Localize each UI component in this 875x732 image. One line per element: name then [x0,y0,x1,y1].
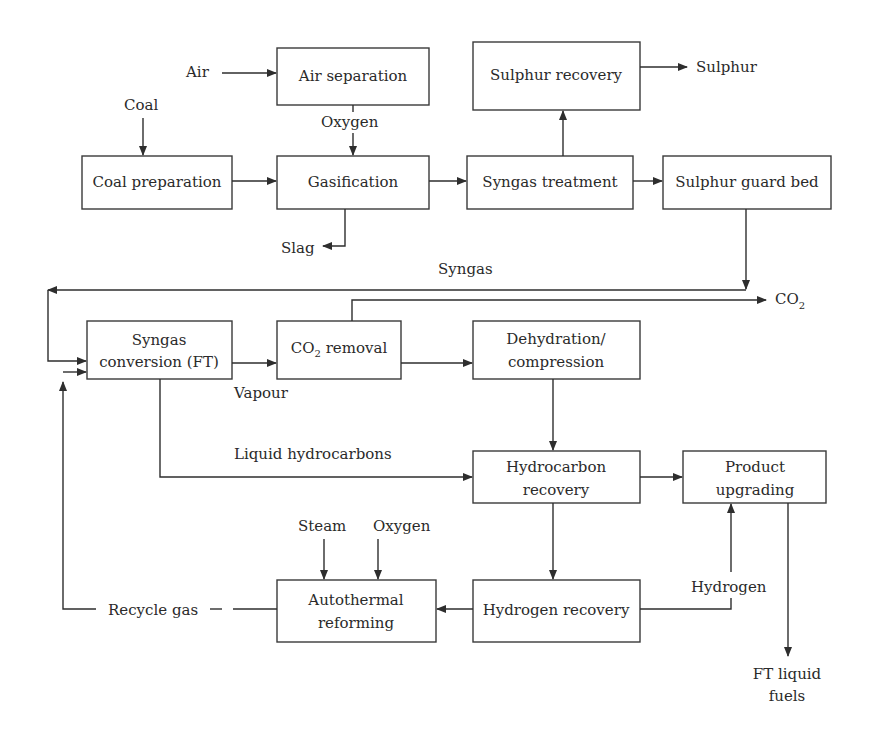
stream-label-liquid-hydrocarbons: Liquid hydrocarbons [234,445,392,463]
stream-label-sulphur: Sulphur [696,58,758,76]
stream-label-recycle-gas: Recycle gas [108,601,198,619]
arrow-recycle-up [63,382,96,609]
box-label: Syngas treatment [482,173,617,191]
stream-label-co2: CO2 [775,290,805,311]
box-label-line-2: conversion (FT) [99,353,219,371]
stream-label-ft-liquid-fuels-2: fuels [769,687,806,705]
box-label-line-2: recovery [523,481,590,499]
box-label-line-1: Product [725,458,785,476]
stream-label-slag: Slag [281,239,315,257]
box-hydrogen-recovery: Hydrogen recovery [473,580,640,642]
box-label-line-1: Autothermal [307,591,403,609]
stream-label-vapour: Vapour [233,384,289,402]
box-label: Gasification [308,173,399,191]
line-hydrogen-a [640,598,731,609]
box-label: Sulphur recovery [490,66,623,84]
box-syngas-treatment: Syngas treatment [467,156,633,209]
box-label-line-2: upgrading [716,481,795,499]
stream-label-air: Air [185,63,210,81]
box-label-line-2: compression [508,353,605,371]
stream-label-coal: Coal [124,96,158,114]
box-autothermal-reforming: Autothermal reforming [277,580,436,642]
stream-label-oxygen-top: Oxygen [321,113,379,131]
stream-label-steam: Steam [298,517,346,535]
box-label: Coal preparation [93,173,222,191]
arrow-co2-out [352,300,766,321]
arrow-syngas-into-conversion [48,290,86,361]
box-co2-removal: CO2 removal [277,321,401,379]
stream-label-syngas: Syngas [438,260,493,278]
box-hydrocarbon-recovery: Hydrocarbon recovery [473,451,640,503]
box-label-line-1: Hydrocarbon [506,458,607,476]
box-sulphur-recovery: Sulphur recovery [473,42,640,110]
box-label-line-1: Syngas [132,331,187,349]
box-air-separation: Air separation [277,48,429,105]
box-coal-preparation: Coal preparation [82,156,232,209]
box-syngas-conversion: Syngas conversion (FT) [87,321,232,379]
stream-label-ft-liquid-fuels-1: FT liquid [753,665,822,683]
process-flow-diagram: Air separation Sulphur recovery Coal pre… [0,0,875,732]
box-sulphur-guard-bed: Sulphur guard bed [663,156,831,209]
box-label: CO2 removal [291,339,388,359]
box-product-upgrading: Product upgrading [683,451,826,503]
box-label: Sulphur guard bed [675,173,819,191]
box-label-line-1: Dehydration/ [506,330,606,348]
box-dehydration-compression: Dehydration/ compression [473,321,640,379]
stream-label-hydrogen: Hydrogen [691,578,767,596]
arrow-slag [323,209,345,246]
box-label: Air separation [298,67,408,85]
box-label: Hydrogen recovery [483,601,630,619]
stream-label-oxygen-bottom: Oxygen [373,517,431,535]
box-gasification: Gasification [277,156,429,209]
box-label-line-2: reforming [318,614,394,632]
